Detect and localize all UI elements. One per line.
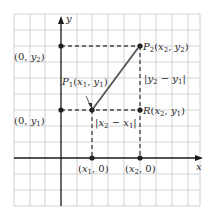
point-x1-0 xyxy=(89,155,94,160)
point-p2 xyxy=(137,43,142,48)
point-0-y2 xyxy=(58,43,63,48)
x-axis-label: x xyxy=(196,161,202,172)
label-vertical-distance: |y2 − y1| xyxy=(144,73,186,86)
dashed-lines xyxy=(61,46,140,158)
point-r xyxy=(137,107,142,112)
label-r: R(x2, y1) xyxy=(142,105,185,118)
points xyxy=(58,43,142,160)
point-p1 xyxy=(89,107,94,112)
y-axis-label: y xyxy=(65,13,72,24)
label-horizontal-distance: |x2 − x1| xyxy=(95,117,137,130)
y-axis-arrow-icon xyxy=(58,16,64,24)
point-0-y1 xyxy=(58,107,63,112)
distance-formula-diagram: y x (0, y2) (0, y1) P1(x1, y1) P2(x2, y2… xyxy=(0,0,213,215)
label-p2: P2(x2, y2) xyxy=(142,41,189,54)
point-x2-0 xyxy=(137,155,142,160)
